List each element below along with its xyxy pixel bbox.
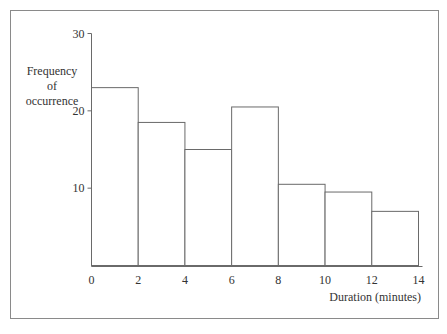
histogram-bar-12-14 (372, 211, 419, 265)
x-tick-label-10: 10 (319, 273, 331, 287)
histogram-bar-0-2 (92, 88, 139, 266)
y-axis-title-line-1: Frequency (27, 64, 78, 78)
y-axis-title-line-2: of (47, 79, 57, 93)
x-tick-label-2: 2 (135, 273, 141, 287)
y-tick-label-10: 10 (73, 181, 85, 195)
histogram-chart: 102030 02468101214 Frequency of occurren… (0, 0, 447, 334)
x-tick-label-12: 12 (366, 273, 378, 287)
histogram-bar-10-12 (325, 192, 372, 265)
x-tick-label-8: 8 (275, 273, 281, 287)
x-ticks-group: 02468101214 (89, 273, 425, 287)
y-axis-title-line-3: occurrence (26, 94, 79, 108)
histogram-bar-8-10 (278, 184, 325, 265)
x-tick-label-0: 0 (89, 273, 95, 287)
x-tick-label-4: 4 (182, 273, 188, 287)
histogram-bar-2-4 (138, 122, 185, 265)
y-tick-label-30: 30 (73, 27, 85, 41)
bars-group (92, 88, 419, 266)
x-axis-title: Duration (minutes) (329, 290, 421, 304)
histogram-bar-4-6 (185, 150, 232, 266)
x-tick-label-14: 14 (413, 273, 425, 287)
x-tick-label-6: 6 (229, 273, 235, 287)
histogram-bar-6-8 (232, 107, 279, 266)
y-ticks-group: 102030 (73, 27, 92, 196)
